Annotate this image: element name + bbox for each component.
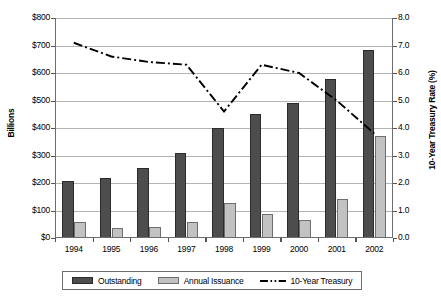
- tick-mark: [393, 46, 397, 47]
- bar-swatch-dark-icon: [72, 277, 93, 284]
- legend-label-ten-year-treasury: 10-Year Treasury: [291, 276, 353, 286]
- chart-container: Billions 10-Year Treasury Rate (%) $0$10…: [0, 0, 441, 299]
- tick-mark: [93, 238, 94, 242]
- tick-mark: [130, 238, 131, 242]
- tick-mark: [393, 18, 397, 19]
- tick-mark: [393, 101, 397, 102]
- tick-mark: [318, 238, 319, 242]
- legend-label-annual-issuance: Annual Issuance: [184, 276, 244, 286]
- tick-mark: [51, 211, 55, 212]
- tick-mark: [393, 128, 397, 129]
- x-axis-tick-label: 2002: [349, 244, 399, 254]
- tick-mark: [393, 211, 397, 212]
- tick-mark: [168, 238, 169, 242]
- legend-item-outstanding[interactable]: Outstanding: [72, 276, 142, 286]
- tick-mark: [393, 183, 397, 184]
- tick-mark: [393, 238, 394, 242]
- dash-dot-line-swatch-icon: [260, 277, 286, 285]
- tick-mark: [355, 238, 356, 242]
- tick-mark: [51, 18, 55, 19]
- tick-mark: [51, 183, 55, 184]
- chart-legend: Outstanding Annual Issuance 10-Year Trea…: [62, 271, 362, 290]
- tick-mark: [205, 238, 206, 242]
- tick-mark: [243, 238, 244, 242]
- tick-mark: [393, 156, 397, 157]
- tick-mark: [280, 238, 281, 242]
- legend-item-ten-year-treasury[interactable]: 10-Year Treasury: [260, 276, 353, 286]
- tick-mark: [55, 238, 56, 242]
- plot-area: [55, 18, 393, 238]
- tick-mark: [51, 101, 55, 102]
- tick-mark: [51, 128, 55, 129]
- bar-swatch-light-icon: [158, 277, 179, 284]
- legend-item-annual-issuance[interactable]: Annual Issuance: [158, 276, 244, 286]
- tick-mark: [393, 73, 397, 74]
- legend-label-outstanding: Outstanding: [98, 276, 142, 286]
- tick-mark: [51, 46, 55, 47]
- plot-frame: [55, 18, 393, 238]
- tick-mark: [51, 156, 55, 157]
- tick-mark: [51, 73, 55, 74]
